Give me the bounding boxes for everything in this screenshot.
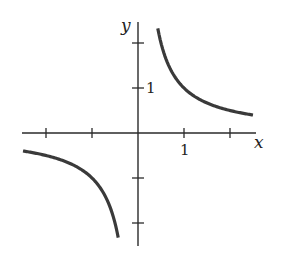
x-axis-label: x (254, 134, 264, 151)
x-tick-label-1: 1 (180, 143, 190, 158)
y-tick-label-1: 1 (146, 81, 156, 96)
y-axis-label: y (121, 17, 131, 34)
right-branch-curve (158, 28, 253, 115)
left-branch-curve (23, 151, 118, 238)
hyperbola-plot (0, 0, 281, 260)
